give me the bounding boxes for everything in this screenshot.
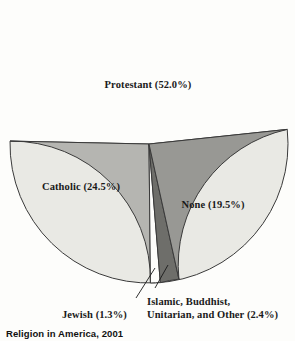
callout-label-jewish: Jewish (1.3%) (62, 309, 127, 321)
slice-label-none: None (19.5%) (181, 199, 244, 211)
pie-chart-figure: Protestant (52.0%) None (19.5%) Catholic… (0, 0, 295, 341)
slice-label-catholic: Catholic (24.5%) (42, 181, 120, 193)
callout-label-islamic-other-line2: Unitarian, and Other (2.4%) (147, 309, 279, 321)
figure-caption: Religion in America, 2001 (6, 328, 124, 339)
slice-label-protestant: Protestant (52.0%) (105, 79, 192, 91)
callout-label-islamic-other-line1: Islamic, Buddhist, (147, 296, 230, 307)
pie-chart-svg: Protestant (52.0%) None (19.5%) Catholic… (0, 0, 295, 341)
